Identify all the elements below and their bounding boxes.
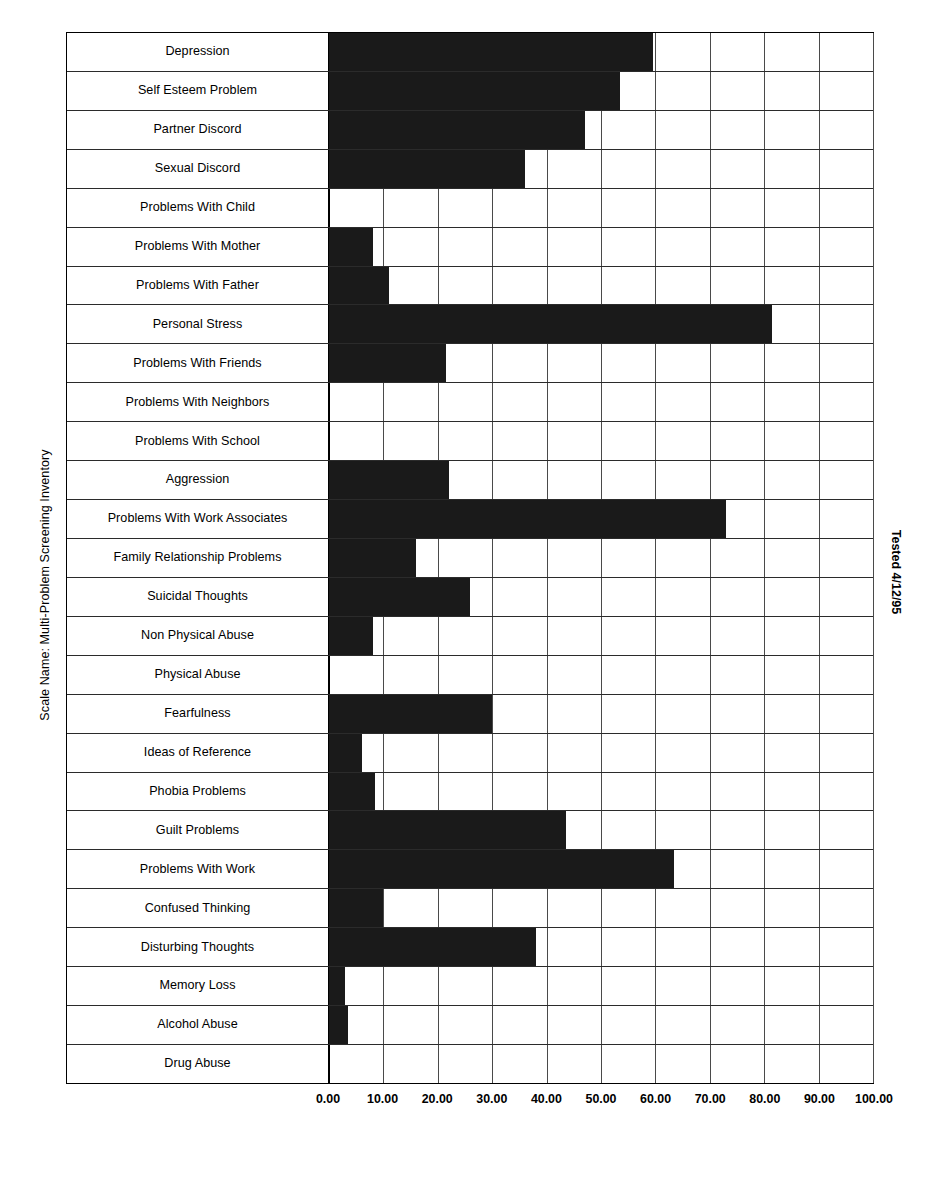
category-label: Physical Abuse [67, 656, 329, 694]
chart-row: Problems With Work [67, 850, 873, 889]
gridline-100 [873, 33, 874, 1083]
bar [329, 889, 383, 927]
x-axis-tick-labels: 0.0010.0020.0030.0040.0050.0060.0070.008… [66, 1092, 874, 1114]
bar-track [329, 695, 873, 733]
category-label: Problems With Mother [67, 228, 329, 266]
category-label: Problems With Friends [67, 344, 329, 382]
chart-row: Problems With Friends [67, 344, 873, 383]
bar-track [329, 500, 873, 538]
x-tick-label: 80.00 [749, 1092, 780, 1106]
bar [329, 1006, 348, 1044]
category-label: Problems With Child [67, 189, 329, 227]
chart-row: Sexual Discord [67, 150, 873, 189]
category-label: Problems With Neighbors [67, 383, 329, 421]
bar [329, 811, 566, 849]
bar [329, 500, 726, 538]
x-tick-label: 0.00 [316, 1092, 340, 1106]
bar [329, 305, 772, 343]
chart-row: Fearfulness [67, 695, 873, 734]
category-label: Drug Abuse [67, 1045, 329, 1083]
bar [329, 461, 449, 499]
chart-row: Problems With Mother [67, 228, 873, 267]
category-label: Ideas of Reference [67, 734, 329, 772]
bar-track [329, 656, 873, 694]
bar-track [329, 889, 873, 927]
bar-track [329, 72, 873, 110]
category-label: Problems With Work Associates [67, 500, 329, 538]
x-tick-label: 40.00 [531, 1092, 562, 1106]
chart-row: Problems With Father [67, 267, 873, 306]
bar-track [329, 578, 873, 616]
chart-row: Problems With Child [67, 189, 873, 228]
chart-row: Partner Discord [67, 111, 873, 150]
bar-track [329, 617, 873, 655]
x-tick-label: 10.00 [367, 1092, 398, 1106]
bar-track [329, 111, 873, 149]
category-label: Aggression [67, 461, 329, 499]
category-label: Confused Thinking [67, 889, 329, 927]
x-tick-label: 20.00 [422, 1092, 453, 1106]
category-label: Problems With Father [67, 267, 329, 305]
bar-track [329, 228, 873, 266]
chart-row: Aggression [67, 461, 873, 500]
bar [329, 150, 525, 188]
bar [329, 578, 470, 616]
bar [329, 617, 373, 655]
bar-track [329, 461, 873, 499]
bar-track [329, 1045, 873, 1083]
bar [329, 111, 585, 149]
x-tick-label: 90.00 [804, 1092, 835, 1106]
bar [329, 539, 416, 577]
bar [329, 267, 389, 305]
bar-track [329, 850, 873, 888]
category-label: Self Esteem Problem [67, 72, 329, 110]
chart-row: Problems With Work Associates [67, 500, 873, 539]
category-label: Guilt Problems [67, 811, 329, 849]
x-tick-label: 70.00 [695, 1092, 726, 1106]
bar [329, 33, 653, 71]
x-tick-label: 50.00 [585, 1092, 616, 1106]
x-tick-label: 60.00 [640, 1092, 671, 1106]
category-label: Suicidal Thoughts [67, 578, 329, 616]
bar-rows: DepressionSelf Esteem ProblemPartner Dis… [67, 33, 873, 1083]
bar-track [329, 734, 873, 772]
bar [329, 850, 674, 888]
bar [329, 773, 375, 811]
category-label: Family Relationship Problems [67, 539, 329, 577]
chart-row: Drug Abuse [67, 1045, 873, 1083]
bar-track [329, 33, 873, 71]
bar [329, 734, 362, 772]
chart-row: Physical Abuse [67, 656, 873, 695]
chart-row: Problems With Neighbors [67, 383, 873, 422]
chart-row: Depression [67, 33, 873, 72]
category-label: Sexual Discord [67, 150, 329, 188]
bar [329, 695, 492, 733]
chart-row: Self Esteem Problem [67, 72, 873, 111]
category-label: Problems With Work [67, 850, 329, 888]
bar-track [329, 1006, 873, 1044]
bar-track [329, 150, 873, 188]
chart-row: Problems With School [67, 422, 873, 461]
category-label: Problems With School [67, 422, 329, 460]
plot-area: DepressionSelf Esteem ProblemPartner Dis… [66, 32, 874, 1084]
chart-row: Personal Stress [67, 305, 873, 344]
bar [329, 228, 373, 266]
tested-date-note: Tested 4/12/95 [889, 482, 903, 662]
chart-row: Memory Loss [67, 967, 873, 1006]
bar-track [329, 305, 873, 343]
chart-row: Disturbing Thoughts [67, 928, 873, 967]
category-label: Memory Loss [67, 967, 329, 1005]
chart-row: Suicidal Thoughts [67, 578, 873, 617]
category-label: Depression [67, 33, 329, 71]
bar [329, 928, 536, 966]
category-label: Disturbing Thoughts [67, 928, 329, 966]
bar-track [329, 811, 873, 849]
x-tick-label: 30.00 [476, 1092, 507, 1106]
chart-row: Confused Thinking [67, 889, 873, 928]
category-label: Phobia Problems [67, 773, 329, 811]
chart-figure: Scale Name: Multi-Problem Screening Inve… [0, 0, 935, 1179]
bar [329, 344, 446, 382]
chart-row: Phobia Problems [67, 773, 873, 812]
bar-track [329, 539, 873, 577]
bar-track [329, 928, 873, 966]
